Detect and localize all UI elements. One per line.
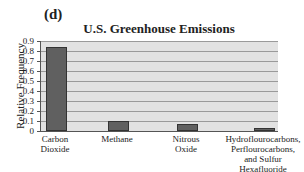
y-tick-mark [37, 61, 41, 62]
y-tick-label: 0.7 [10, 57, 34, 66]
gridline [41, 91, 278, 92]
y-tick-mark [37, 81, 41, 82]
y-tick-label: 0.5 [10, 77, 34, 86]
gridline [41, 121, 278, 122]
plot-area [40, 41, 278, 132]
gridline [41, 41, 278, 42]
y-tick-mark [37, 91, 41, 92]
gridline [41, 101, 278, 102]
y-tick-mark [37, 121, 41, 122]
y-tick-mark [37, 111, 41, 112]
y-tick-mark [37, 101, 41, 102]
bar [177, 124, 198, 131]
y-tick-mark [37, 131, 41, 132]
y-tick-label: 0.8 [10, 47, 34, 56]
gridline [41, 61, 278, 62]
y-tick-label: 0.9 [10, 37, 34, 46]
y-tick-label: 0.3 [10, 97, 34, 106]
gridline [41, 111, 278, 112]
y-tick-label: 0.1 [10, 117, 34, 126]
gridline [41, 81, 278, 82]
y-tick-mark [37, 41, 41, 42]
bar [46, 47, 67, 131]
bar [254, 128, 275, 131]
gridline [41, 71, 278, 72]
x-tick-label: Hydroflourocarbons, Perflourocarbons, an… [213, 134, 304, 172]
y-tick-mark [37, 71, 41, 72]
y-tick-label: 0.2 [10, 107, 34, 116]
y-tick-label: 0.4 [10, 87, 34, 96]
chart-title: U.S. Greenhouse Emissions [0, 21, 304, 37]
y-tick-mark [37, 51, 41, 52]
bar [108, 121, 129, 131]
gridline [41, 51, 278, 52]
y-tick-label: 0.6 [10, 67, 34, 76]
